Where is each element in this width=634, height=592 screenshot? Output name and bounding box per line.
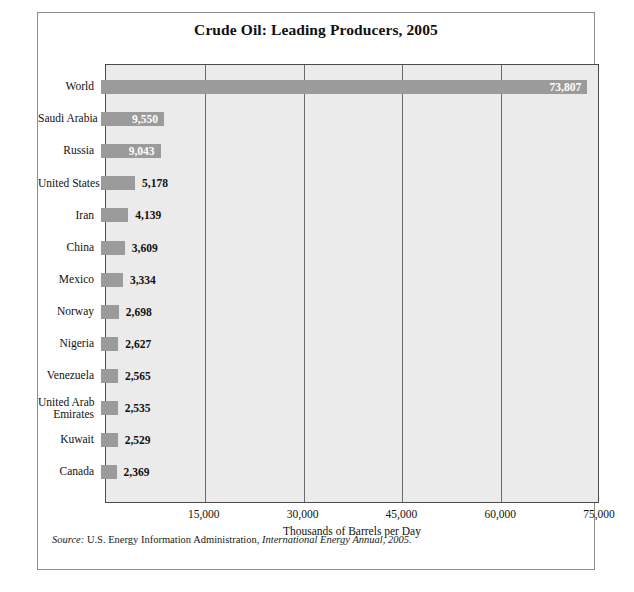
page-title: Crude Oil: Leading Producers, 2005 <box>38 21 594 39</box>
bar-value-label: 2,565 <box>125 368 151 384</box>
bar <box>101 208 128 222</box>
bar <box>101 337 118 351</box>
category-label: Norway <box>38 306 100 318</box>
table-row: Iran4,139 <box>38 207 599 223</box>
bar-track: 9,043 <box>100 143 599 159</box>
x-axis-tick-label: 15,000 <box>188 507 220 521</box>
table-row: Canada2,369 <box>38 464 599 480</box>
bar-track: 73,807 <box>100 79 599 95</box>
table-row: China3,609 <box>38 240 599 256</box>
category-label: Russia <box>38 145 100 157</box>
bar <box>101 241 125 255</box>
x-axis-tick-label: 30,000 <box>287 507 319 521</box>
bar <box>101 176 135 190</box>
bar <box>101 433 118 447</box>
table-row: Nigeria2,627 <box>38 336 599 352</box>
bar-value-label: 2,627 <box>125 336 151 352</box>
bar-track: 2,535 <box>100 400 599 416</box>
bar-track: 3,334 <box>100 272 599 288</box>
category-label: China <box>38 242 100 254</box>
bar-value-label: 2,369 <box>124 464 150 480</box>
table-row: United ArabEmirates2,535 <box>38 400 599 416</box>
bar-value-label: 2,698 <box>126 304 152 320</box>
bar-track: 3,609 <box>100 240 599 256</box>
bar-value-label: 9,550 <box>101 111 158 127</box>
category-label: World <box>38 81 100 93</box>
bar <box>101 369 118 383</box>
bar-value-label: 73,807 <box>101 79 581 95</box>
category-label: Venezuela <box>38 370 100 382</box>
bar-track: 5,178 <box>100 175 599 191</box>
bar-value-label: 9,043 <box>101 143 155 159</box>
table-row: Russia9,043 <box>38 143 599 159</box>
bar-value-label: 3,609 <box>132 240 158 256</box>
bar-value-label: 2,529 <box>125 432 151 448</box>
source-body: U.S. Energy Information Administration, <box>84 534 262 545</box>
table-row: Norway2,698 <box>38 304 599 320</box>
bar-track: 2,369 <box>100 464 599 480</box>
category-label: United States <box>38 178 100 190</box>
category-label: Mexico <box>38 274 100 286</box>
table-row: Kuwait2,529 <box>38 432 599 448</box>
bar-track: 9,550 <box>100 111 599 127</box>
table-row: Venezuela2,565 <box>38 368 599 384</box>
bar <box>101 305 119 319</box>
bar-track: 2,529 <box>100 432 599 448</box>
source-publication: International Energy Annual, 2005. <box>262 534 412 545</box>
bar-track: 2,698 <box>100 304 599 320</box>
bar-track: 4,139 <box>100 207 599 223</box>
bar-rows: World73,807Saudi Arabia9,550Russia9,043U… <box>38 64 599 503</box>
source-label: Source: <box>52 534 84 545</box>
bar-value-label: 2,535 <box>125 400 151 416</box>
source-note: Source: U.S. Energy Information Administ… <box>52 534 412 545</box>
x-axis-tick-label: 60,000 <box>484 507 516 521</box>
bar-value-label: 4,139 <box>135 207 161 223</box>
category-label: United ArabEmirates <box>38 396 100 421</box>
category-label: Nigeria <box>38 338 100 350</box>
bar-value-label: 5,178 <box>142 175 168 191</box>
category-label: Canada <box>38 466 100 478</box>
table-row: World73,807 <box>38 79 599 95</box>
bar-track: 2,627 <box>100 336 599 352</box>
bar-value-label: 3,334 <box>130 272 156 288</box>
figure-frame: Crude Oil: Leading Producers, 2005 World… <box>37 12 595 570</box>
x-axis-ticks: 15,00030,00045,00060,00075,000 <box>105 507 599 523</box>
bar <box>101 273 123 287</box>
bar <box>101 465 117 479</box>
category-label: Iran <box>38 210 100 222</box>
table-row: Mexico3,334 <box>38 272 599 288</box>
x-axis-tick-label: 45,000 <box>386 507 418 521</box>
category-label: Saudi Arabia <box>38 113 100 125</box>
table-row: Saudi Arabia9,550 <box>38 111 599 127</box>
bar <box>101 401 118 415</box>
bar-track: 2,565 <box>100 368 599 384</box>
table-row: United States5,178 <box>38 175 599 191</box>
category-label: Kuwait <box>38 434 100 446</box>
chart-body: World73,807Saudi Arabia9,550Russia9,043U… <box>38 55 596 525</box>
x-axis-tick-label: 75,000 <box>583 507 615 521</box>
